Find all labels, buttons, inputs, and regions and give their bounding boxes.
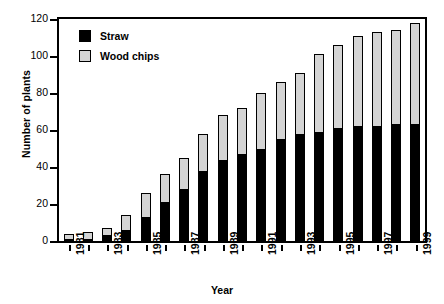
bar-segment-straw [391,124,401,241]
x-tick-1983 [107,245,109,251]
x-tick-1998 [396,245,398,251]
bar-segment-wood-chips [353,36,363,127]
x-tick-label-1983: 1983 [112,232,124,255]
bar-segment-wood-chips [179,158,189,189]
chart-legend: Straw Wood chips [79,27,159,67]
x-tick-1982 [88,245,90,251]
bar-segment-wood-chips [237,108,247,154]
x-tick-1985 [146,245,148,251]
x-tick-1995 [339,245,341,251]
bar-segment-wood-chips [102,228,112,235]
bar-1991 [256,93,266,241]
x-tick-1992 [281,245,283,251]
bar-segment-straw [372,126,382,241]
x-tick-1997 [377,245,379,251]
bar-1997 [372,32,382,241]
x-tick-1991 [261,245,263,251]
x-tick-1987 [184,245,186,251]
bar-1996 [353,36,363,241]
bar-segment-wood-chips [295,73,305,134]
bar-1998 [391,30,401,241]
x-tick-1994 [319,245,321,251]
x-tick-label-1985: 1985 [151,232,163,255]
y-tick-120 [50,19,59,21]
bar-1992 [276,82,286,241]
bar-segment-wood-chips [121,215,131,230]
x-tick-label-1981: 1981 [74,232,86,255]
bar-1994 [314,54,324,241]
bar-1988 [198,134,208,241]
y-tick-0 [50,241,59,243]
bar-1985 [141,193,151,241]
bar-segment-straw [353,126,363,241]
y-tick-60 [50,130,59,132]
bar-segment-straw [410,124,420,241]
bar-segment-wood-chips [160,174,170,202]
x-tick-label-1991: 1991 [266,232,278,255]
bar-1987 [179,158,189,241]
x-tick-1993 [300,245,302,251]
y-tick-label-40: 40 [8,160,48,172]
bar-segment-straw [276,139,286,241]
y-tick-label-120: 120 [8,12,48,24]
bar-segment-wood-chips [314,54,324,132]
x-tick-1990 [242,245,244,251]
bar-1989 [218,115,228,241]
y-tick-20 [50,204,59,206]
bar-segment-straw [218,160,228,241]
plot-area: Straw Wood chips [57,17,427,243]
y-tick-80 [50,93,59,95]
bar-segment-straw [333,128,343,241]
x-tick-label-1997: 1997 [382,232,394,255]
y-tick-label-100: 100 [8,49,48,61]
bar-segment-wood-chips [198,134,208,171]
bar-segment-wood-chips [256,93,266,149]
bar-segment-wood-chips [333,45,343,128]
bar-segment-straw [198,171,208,241]
x-tick-label-1989: 1989 [228,232,240,255]
y-tick-100 [50,56,59,58]
bar-segment-straw [237,154,247,241]
bar-segment-wood-chips [141,193,151,217]
bar-segment-straw [141,217,151,241]
x-tick-label-1987: 1987 [189,232,201,255]
x-tick-label-1999: 1999 [421,232,433,255]
chart-figure: Number of plants 020406080100120 Straw W… [0,0,444,304]
bar-1995 [333,45,343,241]
bar-segment-straw [256,149,266,242]
x-tick-1981 [69,245,71,251]
y-tick-40 [50,167,59,169]
x-axis-title: Year [0,284,444,296]
legend-label-straw: Straw [100,30,129,42]
bar-segment-wood-chips [276,82,286,139]
y-tick-label-60: 60 [8,123,48,135]
legend-swatch-straw-icon [79,30,91,42]
y-tick-label-80: 80 [8,86,48,98]
x-tick-1988 [204,245,206,251]
bar-segment-straw [179,189,189,241]
x-tick-1996 [358,245,360,251]
bar-segment-wood-chips [410,23,420,125]
bar-segment-wood-chips [372,32,382,126]
bar-segment-wood-chips [391,30,401,124]
bar-1993 [295,73,305,241]
x-tick-1989 [223,245,225,251]
bar-1990 [237,108,247,241]
x-tick-1984 [127,245,129,251]
bar-1999 [410,23,420,241]
bar-1983 [102,228,112,241]
legend-label-wood-chips: Wood chips [100,50,159,62]
bar-segment-wood-chips [218,115,228,159]
x-tick-label-1995: 1995 [344,232,356,255]
x-tick-1999 [416,245,418,251]
legend-item-wood-chips: Wood chips [79,47,159,64]
bar-segment-straw [295,134,305,241]
bar-segment-straw [64,239,74,241]
bar-segment-straw [102,235,112,241]
legend-swatch-wood-chips-icon [79,50,91,62]
y-tick-label-20: 20 [8,197,48,209]
legend-item-straw: Straw [79,27,159,44]
x-tick-1986 [165,245,167,251]
bar-segment-straw [314,132,324,241]
bar-1981 [64,234,74,241]
